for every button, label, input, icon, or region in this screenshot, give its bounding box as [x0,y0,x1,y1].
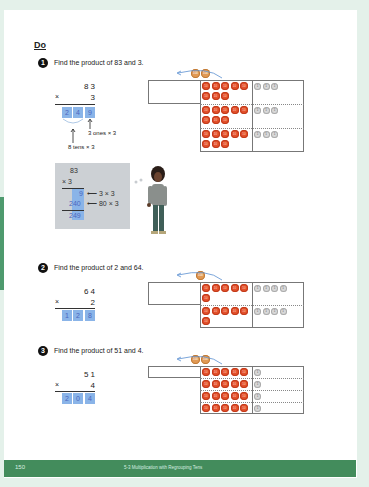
regroup-arrow-icon [172,270,242,284]
note-tens: 8 tens × 3 [68,144,95,150]
ten-counter: 10 [212,392,220,400]
ten-counter: 10 [221,380,229,388]
multiplier: 2 [91,298,95,307]
answer-rule [55,391,95,392]
ten-counter: 10 [240,368,248,376]
one-counter: 1 [263,308,270,315]
ten-counter: 10 [240,82,248,90]
ten-counter: 10 [221,404,229,412]
one-counter: 1 [254,131,261,138]
ten-counter: 10 [202,380,210,388]
worked-partial-2: 240 [69,200,81,207]
one-counter: 1 [254,369,261,376]
ten-counter: 10 [212,82,220,90]
ten-counter: 10 [202,392,210,400]
ten-counter: 10 [202,92,210,100]
one-counter: 1 [271,285,278,292]
one-counter: 1 [271,83,278,90]
ten-counter: 10 [240,284,248,292]
one-counter: 1 [254,107,261,114]
multiplicand: 8 3 [84,82,95,91]
note-ones: 3 ones × 3 [88,130,116,136]
ten-counter: 10 [202,307,210,315]
one-counter: 1 [263,131,270,138]
ten-counter: 10 [231,284,239,292]
one-counter: 1 [254,308,261,315]
lesson-title: 5-3 Multiplication with Regrouping Tens [124,465,202,470]
worked-partial-2-note: ⟵ 80 × 3 [87,200,119,208]
ten-counter: 10 [221,106,229,114]
row-divider [200,378,304,379]
ten-counter: 10 [212,307,220,315]
answer-rule [55,308,95,309]
one-counter: 1 [263,83,270,90]
one-counter: 1 [280,308,287,315]
one-counter: 1 [254,393,261,400]
ten-counter: 10 [231,106,239,114]
one-counter: 1 [263,285,270,292]
worked-rule-2 [62,210,84,211]
question-1-prompt: Find the product of 83 and 3. [54,59,144,66]
answer-digit-tens: 2 [73,310,83,321]
ten-counter: 10 [212,92,220,100]
one-counter: 1 [271,107,278,114]
ten-counter: 10 [212,116,220,124]
ten-counter: 10 [221,82,229,90]
one-counter: 1 [263,107,270,114]
worked-total: 249 [69,212,81,219]
ten-counter: 10 [212,130,220,138]
student-character-icon [132,162,172,238]
times-sign: × [55,93,59,100]
ten-counter: 10 [231,380,239,388]
ten-counter: 10 [202,82,210,90]
ten-counter: 10 [202,294,210,302]
ten-counter: 10 [221,284,229,292]
answer-digit-hundreds: 1 [62,310,72,321]
ones-column [252,80,304,152]
ten-counter: 10 [202,116,210,124]
row-divider [200,104,304,105]
ten-counter: 10 [221,392,229,400]
answer-digit-ones: 4 [85,393,95,404]
ten-counter: 10 [212,284,220,292]
ten-counter: 10 [202,106,210,114]
ten-counter: 10 [202,284,210,292]
regroup-arrow-icon [172,68,242,82]
ten-counter: 10 [240,404,248,412]
section-heading: Do [34,40,46,50]
ten-counter: 10 [240,307,248,315]
ten-counter: 10 [231,130,239,138]
row-divider [200,128,304,129]
multiplicand: 5 1 [84,370,95,379]
answer-rule [55,104,95,105]
question-2-prompt: Find the product of 2 and 64. [54,264,144,271]
multiplier: 3 [91,93,95,102]
one-counter: 1 [254,405,261,412]
one-counter: 1 [280,285,287,292]
times-sign: × [55,381,59,388]
answer-digit-hundreds: 2 [62,393,72,404]
one-counter: 1 [254,285,261,292]
question-2-number: 2 [38,263,48,273]
hundreds-column [148,80,201,104]
ten-counter: 10 [240,106,248,114]
ten-counter: 10 [212,106,220,114]
ten-counter: 10 [231,392,239,400]
ten-counter: 10 [221,307,229,315]
question-1-number: 1 [38,58,48,68]
ten-counter: 10 [212,380,220,388]
worked-top: 83 [70,167,78,174]
regroup-arrow-icon [172,354,242,368]
ten-counter: 10 [202,140,210,148]
row-divider [200,305,304,306]
question-3-prompt: Find the product of 51 and 4. [54,347,144,354]
worked-partial-1: 9 [79,190,83,197]
ten-counter: 10 [202,130,210,138]
one-counter: 1 [254,381,261,388]
row-divider [200,402,304,403]
ten-counter: 10 [240,380,248,388]
multiplier: 4 [91,381,95,390]
ten-counter: 10 [221,130,229,138]
ten-counter: 10 [212,368,220,376]
multiplicand: 6 4 [84,287,95,296]
